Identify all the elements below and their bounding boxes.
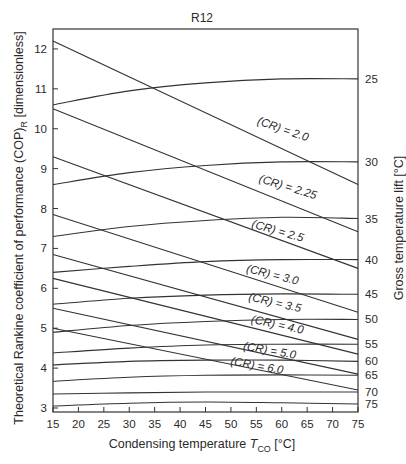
x-axis-label-subscript: CO bbox=[257, 444, 271, 454]
cr-label-5: (CR) = 4.0 bbox=[250, 313, 305, 336]
y-tick-label: 3 bbox=[41, 402, 47, 414]
x-tick-label: 35 bbox=[148, 418, 161, 430]
x-tick-label: 55 bbox=[250, 418, 263, 430]
lift-curve-70 bbox=[53, 392, 358, 394]
y-axis-label-unit: [dimensionless] bbox=[12, 31, 26, 121]
x-axis-label: Condensing temperature TCO [°C] bbox=[0, 437, 404, 454]
x-tick-label: 70 bbox=[326, 418, 339, 430]
y-tick-label: 9 bbox=[41, 163, 47, 175]
lift-curve-45 bbox=[53, 294, 358, 304]
x-tick-label: 45 bbox=[199, 418, 212, 430]
lift-label-35: 35 bbox=[365, 213, 378, 225]
cr-label-2: (CR) = 2.5 bbox=[250, 217, 305, 243]
lift-label-50: 50 bbox=[365, 313, 378, 325]
x-tick-label: 40 bbox=[174, 418, 187, 430]
lift-label-25: 25 bbox=[365, 73, 378, 85]
x-tick-label: 60 bbox=[275, 418, 288, 430]
x-axis: 15202530354045505560657075 bbox=[47, 407, 365, 430]
cr-line-3 bbox=[53, 215, 358, 313]
x-tick-label: 25 bbox=[97, 418, 110, 430]
right-axis-label: Gross temperature lift [°C] bbox=[392, 78, 406, 378]
lift-label-40: 40 bbox=[365, 254, 378, 266]
lift-curve-55 bbox=[53, 344, 358, 353]
y-axis: 3456789101112 bbox=[34, 43, 58, 414]
y-tick-label: 4 bbox=[41, 362, 48, 374]
lift-label-45: 45 bbox=[365, 288, 378, 300]
x-tick-label: 50 bbox=[225, 418, 238, 430]
lift-curve-35 bbox=[53, 217, 358, 236]
y-axis-label: Theoretical Rankine coefficient of perfo… bbox=[12, 28, 29, 428]
cr-line-1 bbox=[53, 109, 358, 232]
lift-label-60: 60 bbox=[365, 355, 378, 367]
lift-curve-40 bbox=[53, 259, 358, 272]
lift-curve-50 bbox=[53, 319, 358, 332]
y-tick-label: 10 bbox=[34, 123, 47, 135]
x-tick-label: 30 bbox=[123, 418, 136, 430]
cr-line-0 bbox=[53, 41, 358, 185]
cr-line-2 bbox=[53, 157, 358, 269]
y-tick-label: 7 bbox=[41, 242, 47, 254]
cr-lines: (CR) = 2.0(CR) = 2.25(CR) = 2.5(CR) = 3.… bbox=[53, 41, 358, 390]
y-tick-label: 5 bbox=[41, 322, 47, 334]
y-tick-label: 12 bbox=[34, 43, 47, 55]
lift-label-30: 30 bbox=[365, 156, 378, 168]
lift-label-55: 55 bbox=[365, 338, 378, 350]
y-tick-label: 11 bbox=[35, 83, 47, 95]
cr-line-4 bbox=[53, 254, 358, 339]
lift-label-75: 75 bbox=[365, 398, 378, 410]
y-tick-label: 6 bbox=[41, 282, 47, 294]
y-axis-label-text: Theoretical Rankine coefficient of perfo… bbox=[12, 128, 26, 425]
cr-label-1: (CR) = 2.25 bbox=[258, 172, 319, 201]
lift-curve-25 bbox=[53, 79, 358, 105]
lift-curve-75 bbox=[53, 402, 358, 406]
right-axis-lift-labels: 2530354045505560657075 bbox=[365, 73, 378, 410]
y-tick-label: 8 bbox=[41, 203, 47, 215]
cr-label-3: (CR) = 3.0 bbox=[245, 262, 300, 287]
lift-label-70: 70 bbox=[365, 386, 378, 398]
cr-label-0: (CR) = 2.0 bbox=[256, 115, 311, 144]
cr-line-7 bbox=[53, 328, 358, 390]
lift-label-65: 65 bbox=[365, 369, 378, 381]
cr-line-6 bbox=[53, 308, 358, 374]
x-tick-label: 65 bbox=[301, 418, 314, 430]
x-axis-label-unit: [°C] bbox=[271, 437, 295, 451]
chart-title: R12 bbox=[0, 11, 404, 25]
x-tick-label: 75 bbox=[352, 418, 365, 430]
y-axis-label-subscript: R bbox=[19, 121, 29, 128]
cr-line-5 bbox=[53, 278, 358, 354]
x-tick-label: 15 bbox=[47, 418, 60, 430]
x-tick-label: 20 bbox=[72, 418, 85, 430]
x-axis-label-text: Condensing temperature bbox=[109, 437, 250, 451]
cr-label-7: (CR) = 6.0 bbox=[230, 355, 285, 376]
